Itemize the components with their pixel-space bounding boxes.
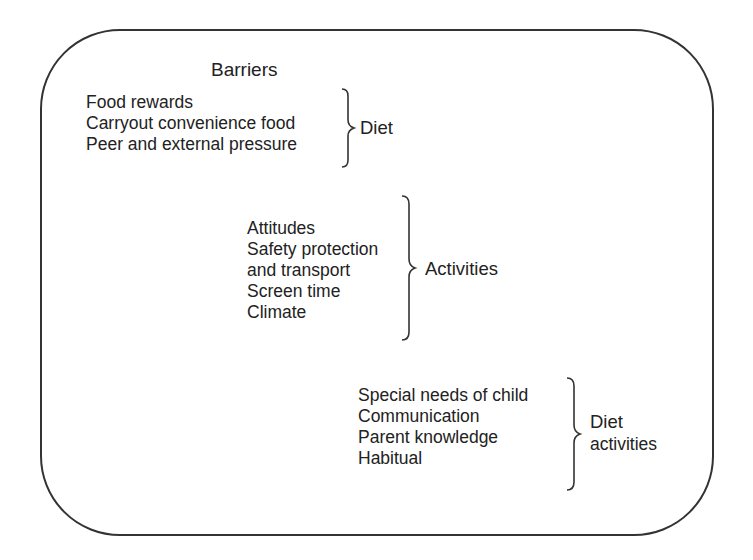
brace-icon — [400, 195, 420, 341]
diet-barrier-list: Food rewards Carryout convenience food P… — [86, 92, 297, 155]
list-item: Communication — [358, 406, 528, 427]
list-item: Habitual — [358, 448, 528, 469]
list-item: and transport — [247, 260, 378, 281]
activities-barrier-list: Attitudes Safety protection and transpor… — [247, 218, 378, 323]
category-label-activities: Activities — [425, 258, 498, 280]
list-item: Climate — [247, 302, 378, 323]
list-item: Peer and external pressure — [86, 134, 297, 155]
category-label-diet: Diet — [360, 117, 393, 139]
list-item: Attitudes — [247, 218, 378, 239]
list-item: Carryout convenience food — [86, 113, 297, 134]
brace-icon — [340, 88, 360, 168]
category-label-diet-activities: Diet activities — [590, 411, 657, 455]
list-item: Safety protection — [247, 239, 378, 260]
list-item: Food rewards — [86, 92, 297, 113]
brace-icon — [565, 377, 585, 491]
diagram-title: Barriers — [211, 59, 278, 81]
diet-activities-barrier-list: Special needs of child Communication Par… — [358, 385, 528, 469]
list-item: Parent knowledge — [358, 427, 528, 448]
list-item: Screen time — [247, 281, 378, 302]
list-item: Special needs of child — [358, 385, 528, 406]
